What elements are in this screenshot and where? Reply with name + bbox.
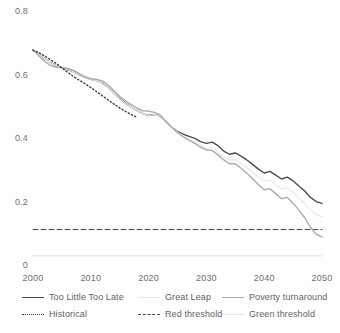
series-line-historical (33, 50, 137, 117)
legend-swatch-solid-line-icon (138, 292, 160, 302)
x-tick-label: 2030 (186, 273, 226, 283)
x-tick-label: 2020 (129, 273, 169, 283)
legend-label: Green threshold (249, 309, 315, 319)
legend-row: HistoricalRed thresholdGreen threshold (0, 305, 340, 322)
legend-swatch-dotted-line-icon (22, 309, 44, 319)
legend-swatch-solid-line-icon (22, 292, 44, 302)
x-tick-label: 2040 (244, 273, 284, 283)
x-tick-label: 2010 (71, 273, 111, 283)
x-tick-label: 2050 (302, 273, 340, 283)
series-line-great-leap (33, 50, 322, 217)
plot-area (0, 0, 340, 333)
legend-item-great-leap[interactable]: Great Leap (138, 288, 211, 305)
legend-item-red-threshold[interactable]: Red threshold (138, 305, 222, 322)
line-chart: 00.20.40.60.8 200020102020203020402050 T… (0, 0, 340, 333)
legend-label: Red threshold (165, 309, 222, 319)
y-tick-label: 0.2 (0, 197, 28, 207)
chart-legend: Too Little Too LateGreat LeapPoverty tur… (0, 288, 340, 328)
legend-label: Great Leap (165, 292, 211, 302)
legend-row: Too Little Too LateGreat LeapPoverty tur… (0, 288, 340, 305)
legend-item-green-threshold[interactable]: Green threshold (222, 305, 315, 322)
legend-item-too-little-too-late[interactable]: Too Little Too Late (22, 288, 124, 305)
y-tick-label: 0.6 (0, 70, 28, 80)
x-tick-label: 2000 (13, 273, 53, 283)
legend-swatch-solid-line-icon (222, 309, 244, 319)
legend-item-poverty-turnaround[interactable]: Poverty turnaround (222, 288, 327, 305)
legend-label: Too Little Too Late (49, 292, 124, 302)
legend-swatch-solid-line-icon (222, 292, 244, 302)
legend-label: Poverty turnaround (249, 292, 327, 302)
legend-swatch-dashed-line-icon (138, 309, 160, 319)
legend-label: Historical (49, 309, 87, 319)
y-tick-label: 0.8 (0, 6, 28, 16)
legend-item-historical[interactable]: Historical (22, 305, 87, 322)
y-tick-label: 0.4 (0, 133, 28, 143)
y-tick-label: 0 (0, 260, 28, 270)
